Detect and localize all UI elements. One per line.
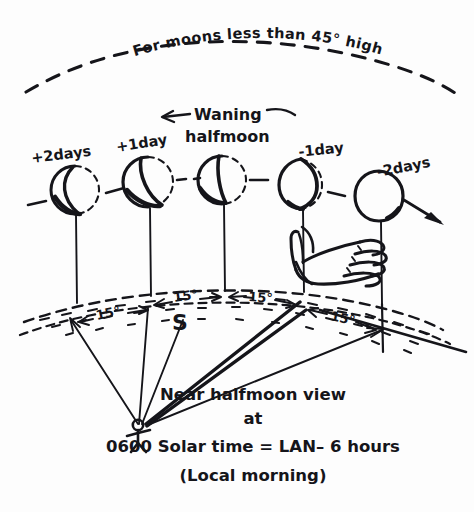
connector-dash-a [28,201,46,205]
observer-head [133,420,143,430]
sight-line-2 [139,308,148,424]
hand-palm-top [303,242,360,262]
waning-direction-group: Waning halfmoon [162,105,295,146]
sight-line-5-thick [147,310,306,426]
moon-3-terminator [218,156,226,203]
sight-line-3 [142,320,183,424]
moon-halfmoon [198,156,246,204]
angle-label-3: 15° [248,289,274,306]
moon-label-minus-1-day: -1day [298,139,345,160]
moon-label-plus-1-day: +1day [115,131,169,155]
halfmoon-label: halfmoon [185,127,270,146]
moon-label-minus-2-days: -2days [376,154,432,180]
connector-dash-f [328,192,345,196]
caption-line-1: Near halfmoon view [160,385,346,404]
caption-line-3: 0600 Solar time = LAN– 6 hours [106,437,400,456]
hand-drawn-astronomy-diagram: For moons less than 45° high Waning half… [0,0,474,512]
moon-motion-arrow [404,200,444,225]
altitude-arc-dashed [26,41,455,93]
moon-minus-1-day [279,159,322,209]
moon-1-terminator [64,167,78,213]
connector-dash-c [177,179,186,180]
angle-label-4: 15° [329,308,356,328]
moon-drop-lines [76,205,382,304]
moon-5-lit-edge [387,208,399,218]
drop-line-3 [224,205,225,291]
moon-connector-dashes [28,178,345,205]
hand-crease-2 [352,257,355,261]
drop-line-2 [150,208,151,296]
hand-crease-1 [358,246,361,250]
waning-label: Waning [194,105,262,124]
sight-line-1 [71,320,138,424]
hand-crease-3 [347,268,350,272]
angle-label-1: 15° [95,303,122,323]
moon-2-dashed-limb [148,157,173,207]
moon-plus-1-day [123,157,173,207]
moon-3-dashed-limb [222,156,246,204]
moon-4-lit-edge [288,202,303,209]
diagram-canvas: For moons less than 45° high Waning half… [0,0,474,512]
caption-line-2: at [243,409,262,428]
drop-line-1 [76,215,77,303]
connector-dash-d [194,178,200,179]
caption-line-4: (Local morning) [180,466,327,485]
sight-line-6 [150,330,382,424]
moon-1-dashed-limb [75,166,99,214]
moon-2-terminator [140,158,162,205]
south-direction-marker: S [172,310,188,335]
waning-trailing-dash [267,109,295,115]
angle-label-2: 15° [172,287,198,305]
measuring-hand [291,227,386,286]
moon-plus-2-days [51,166,99,214]
moon-label-plus-2-days: +2days [30,143,92,166]
connector-dash-b [106,188,124,193]
